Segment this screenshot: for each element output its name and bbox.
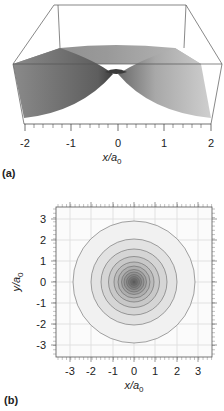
figure-canvas: -2 -1 0 1 2 x/a0 — [0, 0, 224, 411]
svg-text:-1: -1 — [108, 365, 118, 377]
panel-label-a: (a) — [2, 167, 15, 179]
svg-text:3: 3 — [40, 213, 46, 225]
y-tick-labels-b: 3 2 1 0 -1 -2 -3 — [36, 213, 46, 351]
svg-text:-2: -2 — [36, 318, 46, 330]
svg-text:-2: -2 — [86, 365, 96, 377]
svg-text:1: 1 — [40, 255, 46, 267]
surface-plot-a: -2 -1 0 1 2 x/a0 — [13, 5, 222, 166]
x-axis-a — [24, 124, 211, 131]
y-axis-title-b: y/a0 — [10, 272, 25, 293]
svg-text:-3: -3 — [36, 339, 46, 351]
x-tick-labels-a: -2 -1 0 1 2 — [20, 137, 214, 149]
svg-text:1: 1 — [161, 137, 167, 149]
svg-text:1: 1 — [152, 365, 158, 377]
svg-text:0: 0 — [115, 137, 121, 149]
panel-label-b: (b) — [4, 394, 18, 406]
x-axis-title-a: x/a0 — [101, 151, 122, 166]
svg-text:-1: -1 — [36, 297, 46, 309]
svg-text:2: 2 — [208, 137, 214, 149]
svg-text:-1: -1 — [66, 137, 76, 149]
svg-text:3: 3 — [195, 365, 201, 377]
svg-text:2: 2 — [174, 365, 180, 377]
svg-text:-2: -2 — [20, 137, 30, 149]
svg-text:2: 2 — [40, 234, 46, 246]
x-tick-labels-b: -3 -2 -1 0 1 2 3 — [65, 365, 201, 377]
svg-text:0: 0 — [131, 365, 137, 377]
svg-text:-3: -3 — [65, 365, 75, 377]
contour-plot-b: -3 -2 -1 0 1 2 3 3 2 1 0 -1 -2 -3 x/a0 y… — [10, 202, 217, 394]
contour-levels — [73, 221, 195, 343]
x-axis-title-b: x/a0 — [123, 379, 144, 394]
svg-text:0: 0 — [40, 276, 46, 288]
